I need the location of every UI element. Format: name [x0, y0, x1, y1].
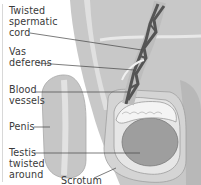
diagram-frame: Twisted spermatic cord Vas deferens Bloo… [0, 0, 201, 185]
label-blood-vessels: Blood vessels [9, 84, 45, 106]
label-penis: Penis [9, 121, 35, 132]
label-twisted-spermatic-cord: Twisted spermatic cord [9, 5, 58, 38]
label-scrotum: Scrotum [61, 175, 102, 185]
label-testis-twisted-around: Testis twisted around [9, 147, 45, 180]
testis-shape [122, 118, 178, 166]
label-vas-deferens: Vas deferens [9, 46, 52, 68]
urethra [64, 80, 66, 175]
